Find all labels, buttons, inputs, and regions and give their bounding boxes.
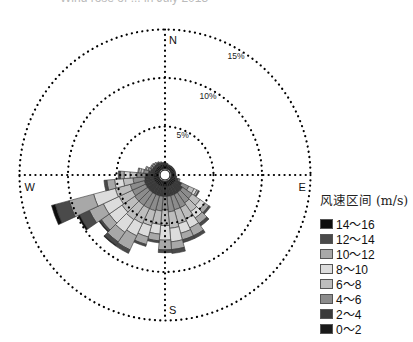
legend-item: 4～6 bbox=[320, 291, 408, 306]
legend-item: 12～14 bbox=[320, 231, 408, 246]
compass-label-e: E bbox=[299, 181, 306, 193]
compass-label-w: W bbox=[25, 181, 36, 193]
legend-item: 2～4 bbox=[320, 306, 408, 321]
compass-label-n: N bbox=[169, 34, 177, 46]
petal-segment bbox=[162, 162, 164, 164]
legend-swatch bbox=[320, 279, 333, 289]
legend-swatch bbox=[320, 219, 333, 229]
legend-swatch bbox=[320, 249, 333, 259]
petal-segment bbox=[159, 225, 170, 240]
legend-swatch bbox=[320, 264, 333, 274]
legend-item: 14～16 bbox=[320, 216, 408, 231]
center-hub bbox=[160, 170, 170, 180]
legend-item: 0～2 bbox=[320, 321, 408, 336]
ring-label: 10% bbox=[200, 91, 217, 101]
legend-item: 6～8 bbox=[320, 276, 408, 291]
legend: 风速区间 (m/s) 14～1612～1410～128～106～84～62～40… bbox=[320, 190, 408, 336]
legend-item: 10～12 bbox=[320, 246, 408, 261]
legend-swatch bbox=[320, 234, 333, 244]
ring-label: 15% bbox=[227, 51, 244, 61]
legend-swatch bbox=[320, 324, 333, 334]
legend-title: 风速区间 (m/s) bbox=[320, 190, 408, 209]
legend-swatch bbox=[320, 294, 333, 304]
legend-label: 0～2 bbox=[336, 320, 361, 337]
legend-item: 8～10 bbox=[320, 261, 408, 276]
legend-items: 14～1612～1410～128～106～84～62～40～2 bbox=[320, 216, 408, 336]
legend-swatch bbox=[320, 309, 333, 319]
ring-label: 5% bbox=[177, 130, 190, 140]
compass-label-s: S bbox=[169, 304, 176, 316]
